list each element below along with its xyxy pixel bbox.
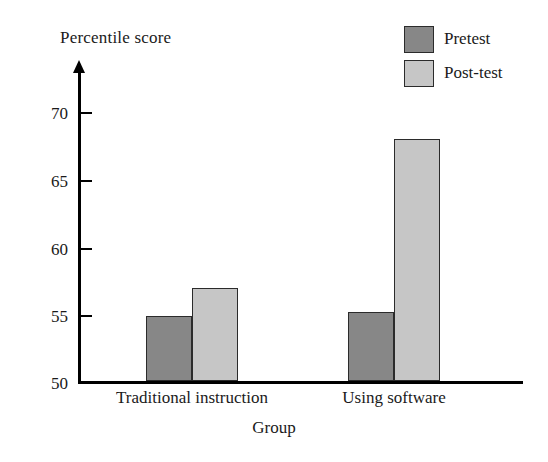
y-tick-label-65: 65	[32, 173, 68, 190]
legend-swatch-post-test	[404, 60, 434, 87]
y-tick-label-70: 70	[32, 105, 68, 122]
plot-area: 70 65 60 55 50	[78, 62, 523, 383]
legend-label-post-test: Post-test	[444, 63, 503, 83]
y-tick-label-55: 55	[32, 308, 68, 325]
legend-item-pretest: Pretest	[404, 22, 503, 56]
bars-layer	[78, 62, 523, 383]
bar-post-test-traditional-instruction	[192, 288, 238, 381]
legend: Pretest Post-test	[404, 22, 503, 90]
legend-swatch-pretest	[404, 26, 434, 53]
category-label-using-software: Using software	[342, 388, 445, 408]
bar-chart: Percentile score 70 65 60 55 50 Traditio…	[0, 0, 548, 462]
x-axis-title: Group	[0, 418, 548, 438]
legend-label-pretest: Pretest	[444, 29, 490, 49]
bar-post-test-using-software	[394, 139, 440, 381]
bar-pretest-traditional-instruction	[146, 316, 192, 381]
bar-pretest-using-software	[348, 312, 394, 381]
y-tick-label-50: 50	[32, 375, 68, 392]
legend-item-post-test: Post-test	[404, 56, 503, 90]
y-tick-label-60: 60	[32, 241, 68, 258]
y-axis-title: Percentile score	[60, 28, 171, 48]
category-label-traditional-instruction: Traditional instruction	[116, 388, 268, 408]
